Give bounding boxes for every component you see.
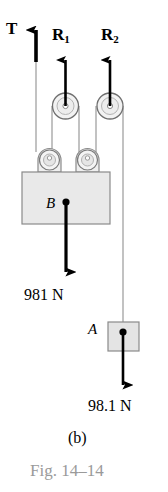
reaction-2-label-text: R xyxy=(101,25,113,44)
tension-label: T xyxy=(6,20,17,37)
reaction-1-label: R1 xyxy=(52,26,70,45)
block-b-label: B xyxy=(46,196,55,211)
reaction-1-subscript: 1 xyxy=(64,33,70,45)
pulley-lower-left xyxy=(38,149,61,173)
tension-label-text: T xyxy=(6,19,17,38)
reaction-2-label: R2 xyxy=(101,26,119,45)
pulley-system-diagram xyxy=(0,0,168,492)
pulley-lower-right xyxy=(76,149,99,173)
panel-label: (b) xyxy=(68,430,87,446)
reaction-1-label-text: R xyxy=(52,25,64,44)
block-a-label: A xyxy=(88,322,97,337)
reaction-2-subscript: 2 xyxy=(113,33,119,45)
figure-caption: Fig. 14–14 xyxy=(30,462,104,479)
block-a-weight-label: 98.1 N xyxy=(88,398,132,414)
figure-14-14: T R1 R2 B A 981 N 98.1 N (b) Fig. 14–14 xyxy=(0,0,168,492)
block-b-weight-label: 981 N xyxy=(24,287,64,303)
